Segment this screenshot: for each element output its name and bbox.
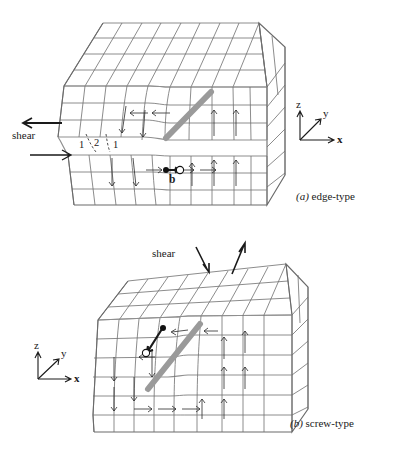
burgers-vector-label: b bbox=[169, 173, 175, 185]
axis-label-y-b: y bbox=[61, 347, 67, 359]
shear-arrow-down bbox=[196, 247, 209, 272]
left-outline-lower bbox=[68, 155, 74, 205]
burgers-vector-arrow-b bbox=[147, 329, 162, 352]
top-face-lattice bbox=[64, 23, 267, 87]
axis-label-x-b: x bbox=[74, 372, 80, 384]
right-face-lattice-b bbox=[286, 264, 308, 432]
axis-label-y-a: y bbox=[323, 107, 329, 119]
burgers-end-marker bbox=[176, 166, 183, 173]
caption-a: (a) edge-type bbox=[296, 190, 355, 202]
plane-number-right: 1 bbox=[113, 139, 118, 150]
caption-b-tag: (b) bbox=[290, 417, 303, 429]
caption-a-tag: (a) bbox=[296, 190, 309, 202]
shear-label-b: shear bbox=[152, 247, 175, 259]
displacement-arrows-right bbox=[189, 110, 239, 186]
displacement-arrows-b-right bbox=[199, 328, 248, 419]
panel-edge-type: shear 1 2 1 b z y x (a) edge-type bbox=[0, 0, 408, 229]
plane-number-middle: 2 bbox=[94, 137, 99, 148]
top-face-lattice-b bbox=[98, 264, 292, 320]
caption-a-text: edge-type bbox=[312, 190, 355, 202]
left-outline-b bbox=[93, 281, 128, 432]
axis-label-x-a: x bbox=[337, 133, 343, 145]
shear-arrow-top bbox=[23, 118, 62, 128]
panel-screw-type: shear z y x (b) screw-type bbox=[0, 229, 408, 458]
burgers-start-marker-b bbox=[160, 325, 166, 331]
caption-b-text: screw-type bbox=[306, 417, 354, 429]
axis-label-z-b: z bbox=[34, 339, 39, 351]
shear-arrow-bottom bbox=[30, 150, 71, 160]
right-face-lattice bbox=[259, 23, 285, 205]
plane-number-left: 1 bbox=[79, 139, 84, 150]
shear-label-a: shear bbox=[12, 129, 35, 141]
burgers-end-marker-b bbox=[142, 349, 149, 356]
axis-label-z-a: z bbox=[296, 98, 301, 110]
dislocation-figure: shear 1 2 1 b z y x (a) edge-type bbox=[0, 0, 408, 458]
caption-b: (b) screw-type bbox=[290, 417, 354, 429]
dislocation-line bbox=[166, 92, 211, 138]
